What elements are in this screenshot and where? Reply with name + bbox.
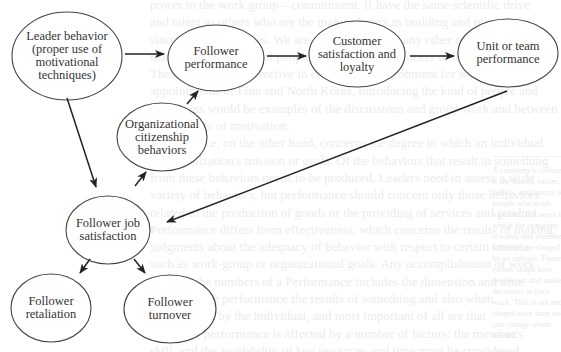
node-follower-turnover: Follower turnover xyxy=(124,275,216,343)
node-unit-team-performance: Unit or team performance xyxy=(458,19,558,87)
node-label-line: citizenship xyxy=(125,131,199,144)
edge-jobsat-to-ocb xyxy=(135,172,146,186)
node-label-line: techniques) xyxy=(26,69,108,82)
node-organizational-citizenship: Organizational citizenship behaviors xyxy=(117,103,207,171)
node-label-line: Organizational xyxy=(125,118,199,131)
node-label-line: loyalty xyxy=(318,61,396,74)
edge-unit-to-jobsat xyxy=(167,91,507,222)
node-leader-behavior: Leader behavior (proper use of motivatio… xyxy=(12,12,122,100)
node-label-line: retaliation xyxy=(26,308,77,321)
node-label-line: satisfaction xyxy=(76,230,140,243)
node-customer-satisfaction: Customer satisfaction and loyalty xyxy=(309,21,405,87)
node-follower-performance: Follower performance xyxy=(168,25,264,91)
node-label-line: turnover xyxy=(147,309,192,322)
node-label-line: performance xyxy=(476,53,539,66)
node-label-line: performance xyxy=(184,58,247,71)
edge-leader-to-jobsat xyxy=(67,98,96,187)
node-follower-retaliation: Follower retaliation xyxy=(11,274,91,342)
node-label-line: Customer xyxy=(318,35,396,48)
node-label-line: satisfaction and xyxy=(318,48,396,61)
node-follower-job-satisfaction: Follower job satisfaction xyxy=(66,196,150,264)
node-label-line: behaviors xyxy=(125,144,199,157)
